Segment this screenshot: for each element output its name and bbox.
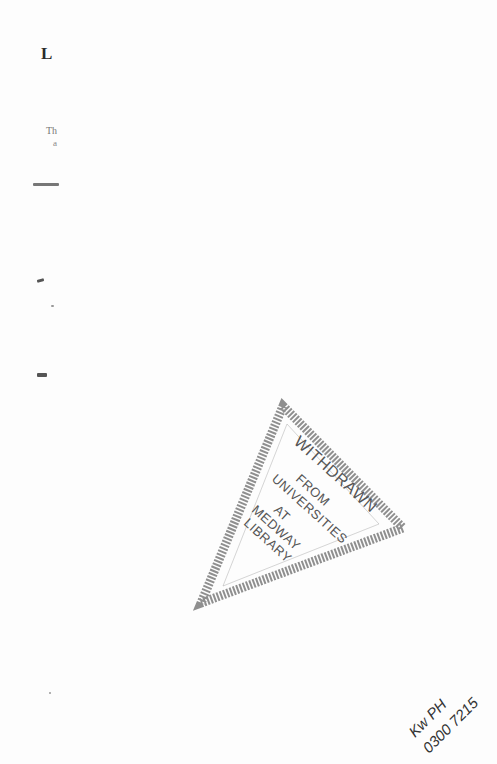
handwritten-note: Kw PH 0300 7215 [405,668,497,760]
ink-mark [37,373,47,377]
withdrawn-stamp: WITHDRAWN FROM UNIVERSITIES AT MEDWAY LI… [193,398,408,613]
text-fragment-2: a [53,138,57,148]
ink-mark [51,305,54,307]
text-fragment-1: Th [46,125,57,136]
ink-mark [37,278,45,283]
ink-mark [49,692,51,694]
initial-letter: L [41,44,52,64]
ink-mark [33,183,59,186]
